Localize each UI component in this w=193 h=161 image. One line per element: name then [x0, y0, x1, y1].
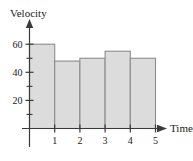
x-tick-label-3: 3 — [103, 135, 108, 146]
bar-1 — [30, 44, 55, 128]
x-axis-title: Time — [170, 122, 193, 134]
bar-5 — [130, 58, 155, 128]
bar-4 — [105, 51, 130, 128]
x-tick-label-4: 4 — [128, 135, 133, 146]
y-tick-label-40: 40 — [13, 67, 23, 78]
bar-3 — [80, 58, 105, 128]
x-tick-label-1: 1 — [52, 135, 57, 146]
x-tick-label-2: 2 — [77, 135, 82, 146]
chart-canvas: 204060 12345 Velocity Time — [0, 0, 193, 161]
y-tick-label-60: 60 — [13, 39, 23, 50]
y-tick-label-20: 20 — [13, 95, 23, 106]
velocity-time-chart-figure: 204060 12345 Velocity Time — [0, 0, 193, 161]
x-tick-label-5: 5 — [153, 135, 158, 146]
y-axis-title: Velocity — [10, 7, 47, 19]
bar-2 — [55, 61, 80, 128]
